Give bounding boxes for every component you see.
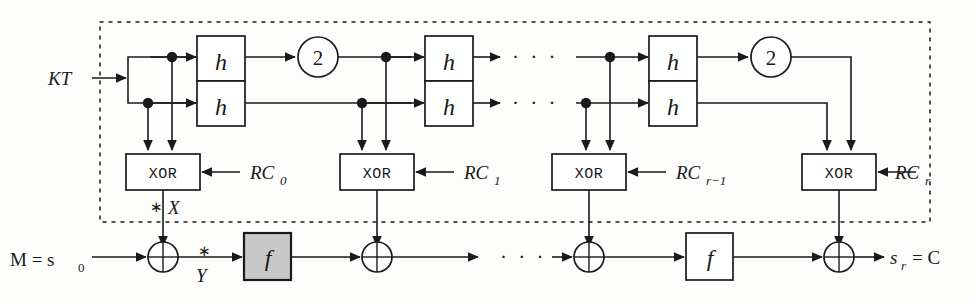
- rc-label-r1: RC: [463, 162, 489, 183]
- doubling-label-r0: 2: [313, 46, 324, 70]
- xor-label-r0: XOR: [149, 166, 178, 183]
- kt-input-label: KT: [47, 68, 73, 89]
- kt-split-top: [128, 57, 196, 78]
- tap-label-x: X: [167, 197, 181, 218]
- h-label-rm1-top: h: [667, 49, 679, 75]
- plaintext-label: M = s: [10, 249, 55, 270]
- ellipsis-data-path: · · ·: [500, 245, 546, 269]
- h-label-r0-top: h: [215, 49, 227, 75]
- cipher-diagram-figure: KT h h 2 h h · · · · · · h h: [0, 0, 973, 301]
- rc-label-r-visible: RC: [894, 162, 920, 183]
- plaintext-sub: 0: [78, 260, 85, 275]
- xor-label-rm1: XOR: [575, 166, 604, 183]
- wire-final-bottom-to-xor: [697, 103, 827, 150]
- tap-label-y: Y: [196, 265, 209, 286]
- rc-sub-r0: 0: [280, 173, 287, 188]
- h-label-r1-top: h: [443, 49, 455, 75]
- xor-label-r: XOR: [825, 166, 854, 183]
- rc-label-rm1: RC: [675, 162, 701, 183]
- rc-sub-rm1: r−1: [706, 173, 726, 188]
- rc-sub-r1: 1: [494, 173, 501, 188]
- cipher-schematic: KT h h 2 h h · · · · · · h h: [0, 0, 973, 301]
- ciphertext-sub: r: [901, 258, 907, 273]
- h-label-r1-bottom: h: [443, 94, 455, 120]
- doubling-label-r: 2: [766, 46, 777, 70]
- ciphertext-label: s: [890, 247, 897, 268]
- kt-split-bottom: [128, 78, 196, 103]
- h-label-rm1-bottom: h: [667, 94, 679, 120]
- ciphertext-eq: = C: [912, 247, 940, 268]
- ellipsis-key-bottom: · · ·: [512, 91, 558, 115]
- xor-label-r1: XOR: [363, 166, 392, 183]
- tap-star-y: ∗: [198, 243, 211, 259]
- rc-label-r0: RC: [249, 162, 275, 183]
- h-label-r0-bottom: h: [215, 94, 227, 120]
- tap-star-x: ∗: [150, 199, 163, 215]
- ellipsis-key-top: · · ·: [512, 45, 558, 69]
